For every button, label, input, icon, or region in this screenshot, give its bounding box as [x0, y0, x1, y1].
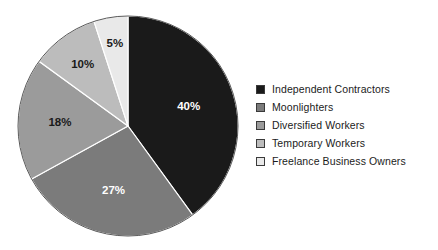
legend-item-label: Independent Contractors: [272, 83, 390, 95]
legend-item-label: Temporary Workers: [272, 137, 365, 149]
legend-item-independent-contractors[interactable]: Independent Contractors: [256, 80, 436, 98]
legend-item-diversified-workers[interactable]: Diversified Workers: [256, 116, 436, 134]
pie-slice-value-label: 5%: [107, 37, 124, 49]
pie-chart-svg: 40%27%18%10%5%: [0, 0, 250, 250]
legend-swatch-icon: [256, 85, 265, 94]
pie-chart-plot-area: 40%27%18%10%5%: [0, 0, 250, 250]
legend-swatch-icon: [256, 157, 265, 166]
legend-swatch-icon: [256, 103, 265, 112]
legend-swatch-icon: [256, 139, 265, 148]
legend-swatch-icon: [256, 121, 265, 130]
pie-slice-value-label: 10%: [71, 58, 94, 70]
pie-slice-value-label: 27%: [102, 184, 125, 196]
pie-slice-value-label: 40%: [177, 100, 200, 112]
chart-legend: Independent Contractors Moonlighters Div…: [256, 80, 436, 170]
legend-item-freelance-business-owners[interactable]: Freelance Business Owners: [256, 152, 436, 170]
legend-item-label: Freelance Business Owners: [272, 155, 406, 167]
pie-slice-value-label: 18%: [48, 116, 71, 128]
pie-chart-figure: 40%27%18%10%5% Independent Contractors M…: [0, 0, 438, 250]
legend-item-label: Moonlighters: [272, 101, 333, 113]
legend-item-temporary-workers[interactable]: Temporary Workers: [256, 134, 436, 152]
legend-item-moonlighters[interactable]: Moonlighters: [256, 98, 436, 116]
legend-item-label: Diversified Workers: [272, 119, 365, 131]
